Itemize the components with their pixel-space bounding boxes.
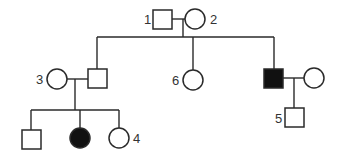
individual-affected-male	[264, 69, 283, 88]
individual-son-male	[22, 130, 41, 149]
pedigree-chart: 1 2 3 6 4 5	[0, 0, 343, 160]
individual-3-female	[47, 69, 67, 89]
individual-2-female	[185, 9, 205, 29]
individual-husband-male	[88, 69, 107, 88]
label-3: 3	[36, 72, 43, 87]
label-4: 4	[133, 131, 140, 146]
individual-5-male	[285, 108, 304, 127]
label-5: 5	[275, 111, 282, 126]
individual-spouse-female	[304, 68, 324, 88]
label-6: 6	[172, 73, 179, 88]
individual-1-male	[153, 10, 172, 29]
label-2: 2	[210, 12, 217, 27]
individual-6-female	[183, 70, 203, 90]
individual-affected-daughter	[70, 128, 90, 148]
label-1: 1	[144, 12, 151, 27]
individual-4-female	[109, 128, 129, 148]
